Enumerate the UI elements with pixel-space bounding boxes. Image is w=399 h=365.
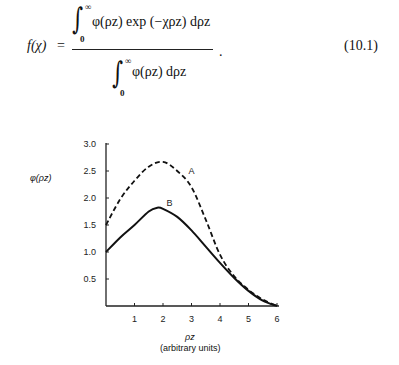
curve-a	[106, 162, 277, 306]
x-tick-label: 5	[246, 314, 251, 324]
y-tick-label: 0.5	[83, 274, 96, 284]
curve-a-label: A	[188, 166, 194, 176]
y-tick-label: 1.5	[83, 220, 96, 230]
y-tick-label: 2.0	[83, 193, 96, 203]
y-tick-label: 2.5	[83, 166, 96, 176]
x-tick-label: 2	[160, 314, 165, 324]
x-tick-label: 1	[132, 314, 137, 324]
y-tick-label: 3.0	[83, 139, 96, 149]
curve-b-label: B	[166, 198, 172, 208]
y-tick-label: 1.0	[83, 247, 96, 257]
x-tick-label: 6	[274, 314, 279, 324]
x-tick-label: 4	[217, 314, 222, 324]
phi-rhoz-chart: 1234560.51.01.52.02.53.0AB	[0, 0, 399, 365]
x-tick-label: 3	[189, 314, 194, 324]
